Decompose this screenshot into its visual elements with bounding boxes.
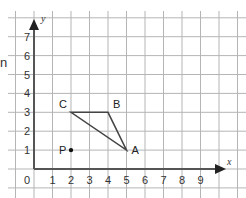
x-tick-label: 7 (161, 174, 167, 186)
y-tick-label: 7 (24, 31, 30, 43)
x-tick-label: 8 (179, 174, 185, 186)
y-axis-ticks: 1234567 (24, 31, 30, 156)
y-tick-label: 4 (24, 87, 30, 99)
y-tick-label: 6 (24, 50, 30, 62)
x-tick-label: 1 (50, 174, 56, 186)
point-label-p: P (59, 144, 66, 156)
x-axis-ticks: 123456789 (50, 174, 204, 186)
y-tick-label: 5 (24, 69, 30, 81)
y-axis-label: y (40, 13, 46, 24)
y-tick-label: 2 (24, 125, 30, 137)
grid-canvas: x y 0 123456789 1234567 ABCP (0, 0, 246, 198)
point-p-dot-icon (69, 148, 73, 152)
y-tick-label: 3 (24, 106, 30, 118)
x-tick-label: 4 (105, 174, 111, 186)
point-label-c: C (59, 98, 67, 110)
x-tick-label: 9 (198, 174, 204, 186)
x-axis-arrow-icon (215, 164, 226, 174)
point-label-b: B (113, 98, 120, 110)
x-axis-label: x (226, 156, 232, 167)
x-tick-label: 2 (68, 174, 74, 186)
origin-label: 0 (24, 174, 30, 186)
y-axis-arrow-icon (29, 19, 39, 30)
x-tick-label: 5 (124, 174, 130, 186)
coordinate-grid-diagram: n x y 0 123456789 1234567 ABCP (0, 0, 246, 198)
point-label-a: A (132, 144, 140, 156)
clipped-text-fragment: n (0, 55, 7, 70)
x-tick-label: 6 (142, 174, 148, 186)
x-tick-label: 3 (87, 174, 93, 186)
y-tick-label: 1 (24, 144, 30, 156)
